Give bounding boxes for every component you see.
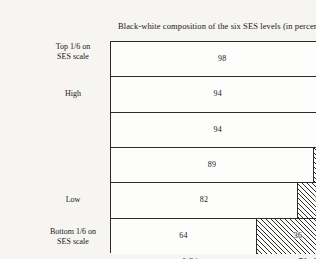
bar-segment-whites: 64 xyxy=(111,219,257,254)
bar-value-whites: 82 xyxy=(200,196,208,204)
bar-segment-whites: 89 xyxy=(111,148,314,182)
table-row: 98 2 xyxy=(111,42,316,77)
bar-value-whites: 94 xyxy=(213,90,221,98)
row-label-top-sixth: Top 1/6 on SES scale xyxy=(41,42,105,61)
bar-segment-blacks: 11 xyxy=(314,148,316,182)
row-label-line: High xyxy=(65,89,81,98)
row-label-low: Low xyxy=(41,195,105,205)
table-row: 89 11 xyxy=(111,148,316,183)
bar-value-whites: 98 xyxy=(218,55,226,63)
row-label-line: Top 1/6 on xyxy=(56,42,91,51)
row-label-line: Low xyxy=(66,195,81,204)
row-label-line: Bottom 1/6 on xyxy=(50,227,96,236)
bar-value-blacks: 36 xyxy=(294,232,302,240)
row-label-group: Top 1/6 on SES scale High Low Bottom 1/6… xyxy=(40,41,108,253)
bar-segment-whites: 82 xyxy=(111,183,298,217)
bar-value-whites: 89 xyxy=(208,161,216,169)
row-label-line: SES scale xyxy=(57,52,89,61)
bar-value-whites: 64 xyxy=(179,232,187,240)
table-row: 94 6 xyxy=(111,113,316,148)
bar-segment-whites: 98 xyxy=(111,42,316,76)
bar-segment-whites: 94 xyxy=(111,113,316,147)
ses-composition-chart: Black-white composition of the six SES l… xyxy=(40,16,276,243)
row-label-line: SES scale xyxy=(57,237,89,246)
plot-area: 98 2 94 6 94 6 89 xyxy=(110,41,316,253)
row-label-bottom-sixth: Bottom 1/6 on SES scale xyxy=(41,227,105,246)
bar-value-blacks: 18 xyxy=(314,196,316,204)
bar-segment-blacks: 36 xyxy=(257,219,316,254)
table-row: 64 36 xyxy=(111,219,316,254)
bar-segment-whites: 94 xyxy=(111,77,316,111)
bar-value-whites: 94 xyxy=(213,126,221,134)
table-row: 82 18 xyxy=(111,183,316,218)
chart-title: Black-white composition of the six SES l… xyxy=(118,21,316,31)
row-label-high: High xyxy=(41,89,105,99)
bar-segment-blacks: 18 xyxy=(298,183,316,217)
table-row: 94 6 xyxy=(111,77,316,112)
